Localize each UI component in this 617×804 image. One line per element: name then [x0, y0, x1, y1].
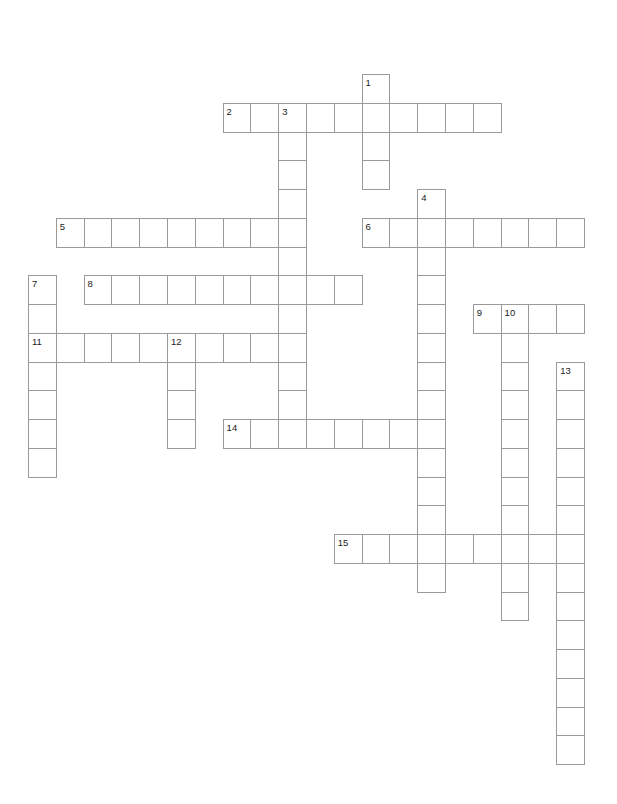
crossword-cell[interactable]	[501, 505, 530, 535]
crossword-cell[interactable]	[501, 534, 530, 564]
crossword-cell[interactable]	[528, 304, 557, 334]
crossword-cell[interactable]	[501, 390, 530, 420]
crossword-cell[interactable]	[556, 448, 585, 478]
crossword-cell[interactable]: 10	[501, 304, 530, 334]
crossword-cell[interactable]	[417, 218, 446, 248]
crossword-cell[interactable]	[417, 419, 446, 449]
crossword-cell[interactable]	[528, 534, 557, 564]
crossword-cell[interactable]	[417, 563, 446, 593]
crossword-cell[interactable]	[417, 477, 446, 507]
crossword-cell[interactable]	[278, 247, 307, 277]
crossword-cell[interactable]	[195, 218, 224, 248]
crossword-cell[interactable]	[223, 333, 252, 363]
crossword-cell[interactable]	[306, 419, 335, 449]
crossword-cell[interactable]	[556, 218, 585, 248]
crossword-cell[interactable]: 13	[556, 362, 585, 392]
crossword-cell[interactable]	[278, 304, 307, 334]
crossword-cell[interactable]: 4	[417, 189, 446, 219]
crossword-cell[interactable]	[250, 419, 279, 449]
crossword-cell[interactable]	[362, 103, 391, 133]
crossword-cell[interactable]	[473, 218, 502, 248]
crossword-cell[interactable]	[56, 333, 85, 363]
crossword-cell[interactable]	[250, 218, 279, 248]
crossword-cell[interactable]	[556, 592, 585, 622]
crossword-cell[interactable]	[362, 160, 391, 190]
crossword-cell[interactable]	[389, 419, 418, 449]
crossword-cell[interactable]: 15	[334, 534, 363, 564]
crossword-cell[interactable]	[556, 390, 585, 420]
crossword-cell[interactable]	[278, 333, 307, 363]
crossword-cell[interactable]	[556, 534, 585, 564]
crossword-cell[interactable]	[278, 419, 307, 449]
crossword-cell[interactable]	[417, 333, 446, 363]
crossword-cell[interactable]	[417, 390, 446, 420]
crossword-cell[interactable]	[139, 333, 168, 363]
crossword-cell[interactable]	[84, 333, 113, 363]
crossword-cell[interactable]	[501, 448, 530, 478]
crossword-cell[interactable]	[556, 678, 585, 708]
crossword-cell[interactable]	[556, 735, 585, 765]
crossword-cell[interactable]	[501, 477, 530, 507]
crossword-cell[interactable]	[167, 419, 196, 449]
crossword-cell[interactable]	[556, 649, 585, 679]
crossword-cell[interactable]: 11	[28, 333, 57, 363]
crossword-cell[interactable]	[278, 160, 307, 190]
crossword-cell[interactable]	[28, 390, 57, 420]
crossword-cell[interactable]	[139, 275, 168, 305]
crossword-cell[interactable]	[417, 247, 446, 277]
crossword-cell[interactable]	[28, 362, 57, 392]
crossword-cell[interactable]	[28, 304, 57, 334]
crossword-cell[interactable]	[28, 448, 57, 478]
crossword-cell[interactable]: 3	[278, 103, 307, 133]
crossword-cell[interactable]: 12	[167, 333, 196, 363]
crossword-cell[interactable]	[278, 132, 307, 162]
crossword-cell[interactable]	[501, 592, 530, 622]
crossword-cell[interactable]	[334, 275, 363, 305]
crossword-cell[interactable]	[278, 362, 307, 392]
crossword-cell[interactable]	[445, 534, 474, 564]
crossword-cell[interactable]	[195, 333, 224, 363]
crossword-cell[interactable]	[167, 362, 196, 392]
crossword-cell[interactable]	[111, 275, 140, 305]
crossword-cell[interactable]	[417, 505, 446, 535]
crossword-cell[interactable]	[250, 103, 279, 133]
crossword-cell[interactable]	[417, 275, 446, 305]
crossword-cell[interactable]	[278, 189, 307, 219]
crossword-cell[interactable]	[111, 218, 140, 248]
crossword-cell[interactable]	[473, 534, 502, 564]
crossword-cell[interactable]	[556, 419, 585, 449]
crossword-cell[interactable]	[417, 534, 446, 564]
crossword-cell[interactable]	[167, 218, 196, 248]
crossword-cell[interactable]	[556, 563, 585, 593]
crossword-cell[interactable]: 14	[223, 419, 252, 449]
crossword-cell[interactable]	[167, 390, 196, 420]
crossword-cell[interactable]	[362, 534, 391, 564]
crossword-cell[interactable]	[84, 218, 113, 248]
crossword-cell[interactable]	[111, 333, 140, 363]
crossword-cell[interactable]	[501, 563, 530, 593]
crossword-cell[interactable]	[473, 103, 502, 133]
crossword-cell[interactable]	[278, 390, 307, 420]
crossword-cell[interactable]	[417, 362, 446, 392]
crossword-cell[interactable]	[556, 477, 585, 507]
crossword-cell[interactable]	[223, 218, 252, 248]
crossword-cell[interactable]	[250, 275, 279, 305]
crossword-cell[interactable]	[278, 275, 307, 305]
crossword-cell[interactable]	[250, 333, 279, 363]
crossword-cell[interactable]: 6	[362, 218, 391, 248]
crossword-cell[interactable]	[195, 275, 224, 305]
crossword-cell[interactable]	[389, 103, 418, 133]
crossword-cell[interactable]: 2	[223, 103, 252, 133]
crossword-cell[interactable]: 8	[84, 275, 113, 305]
crossword-cell[interactable]	[501, 362, 530, 392]
crossword-cell[interactable]	[362, 132, 391, 162]
crossword-cell[interactable]	[556, 707, 585, 737]
crossword-cell[interactable]	[528, 218, 557, 248]
crossword-cell[interactable]: 5	[56, 218, 85, 248]
crossword-cell[interactable]	[334, 103, 363, 133]
crossword-cell[interactable]	[417, 304, 446, 334]
crossword-cell[interactable]	[389, 534, 418, 564]
crossword-cell[interactable]	[501, 333, 530, 363]
crossword-cell[interactable]	[223, 275, 252, 305]
crossword-cell[interactable]	[167, 275, 196, 305]
